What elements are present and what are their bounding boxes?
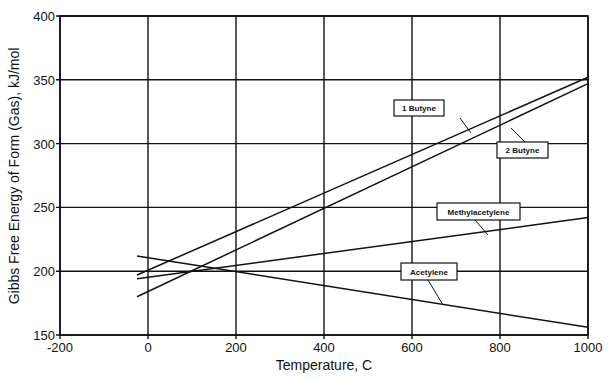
series-line — [137, 218, 588, 279]
series-label: 1 Butyne — [402, 104, 436, 113]
x-tick-label: 600 — [401, 340, 423, 355]
gibbs-energy-chart: -20002004006008001000 150200250300350400… — [0, 0, 609, 379]
series-lines — [137, 77, 588, 327]
x-axis-ticks: -20002004006008001000 — [47, 340, 602, 355]
y-tick-label: 300 — [33, 137, 55, 152]
series-line — [137, 256, 588, 327]
y-tick-label: 400 — [33, 9, 55, 24]
x-tick-label: 0 — [144, 340, 151, 355]
x-tick-label: 200 — [225, 340, 247, 355]
x-tick-label: 1000 — [574, 340, 603, 355]
y-tick-label: 200 — [33, 264, 55, 279]
y-tick-label: 350 — [33, 73, 55, 88]
y-axis-label: Gibbs Free Energy of Form (Gas), kJ/mol — [6, 48, 22, 305]
series-labels: 1 Butyne2 ButyneMethylacetyleneAcetylene — [394, 100, 548, 305]
x-tick-label: 400 — [313, 340, 335, 355]
series-line — [137, 84, 588, 297]
grid-lines — [56, 16, 588, 339]
leader-line — [511, 128, 525, 142]
y-tick-label: 250 — [33, 200, 55, 215]
leader-line — [428, 280, 443, 305]
x-tick-label: 800 — [489, 340, 511, 355]
y-tick-label: 150 — [33, 328, 55, 343]
y-axis-ticks: 150200250300350400 — [33, 9, 55, 343]
x-axis-label: Temperature, C — [276, 357, 372, 373]
series-label: Methylacetylene — [448, 208, 510, 217]
series-label: Acetylene — [410, 268, 448, 277]
series-label: 2 Butyne — [506, 146, 540, 155]
series-line — [137, 77, 588, 275]
